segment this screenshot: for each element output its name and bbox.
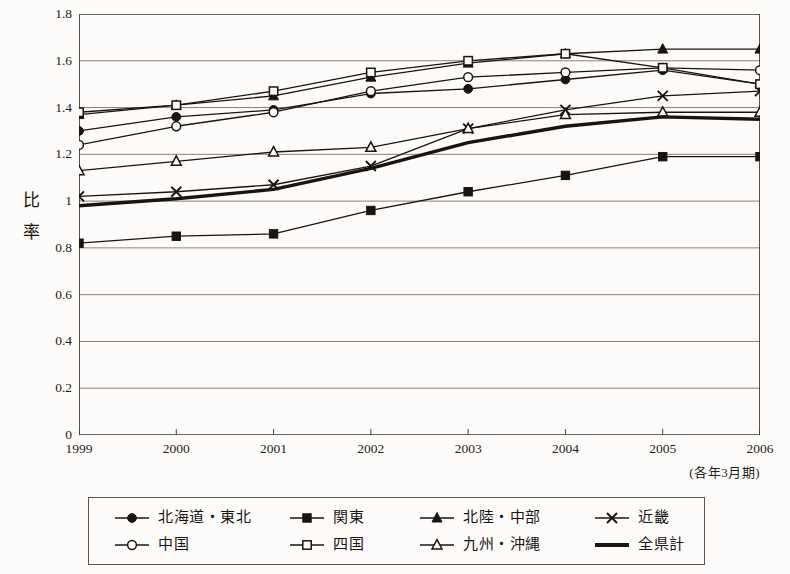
legend-item-4[interactable]: 中国: [113, 537, 288, 552]
chart-svg: [79, 14, 760, 435]
data-point: [172, 101, 180, 109]
legend-marker-open-circle-icon: [113, 538, 151, 552]
legend-item-7[interactable]: 全県計: [593, 537, 718, 552]
data-point: [561, 171, 569, 179]
legend-item-5[interactable]: 四国: [288, 537, 418, 552]
legend-marker-glyph: [303, 540, 311, 548]
data-point: [269, 87, 277, 95]
data-point: [367, 206, 375, 214]
data-point: [464, 57, 472, 65]
legend-marker-thick-line-icon: [593, 538, 631, 552]
x-axis-note: (各年3月期): [689, 462, 760, 481]
data-point: [367, 68, 375, 76]
legend-item-2[interactable]: 北陸・中部: [418, 510, 593, 525]
data-point: [756, 66, 760, 75]
legend-marker-glyph: [432, 539, 442, 548]
x-axis-tick-labels: 19992000200120022003200420052006: [0, 441, 790, 461]
chart-page: 比 率 00.20.40.60.811.21.41.61.8 199920002…: [0, 0, 790, 574]
axis-frame: [79, 14, 760, 435]
legend-item-1[interactable]: 関東: [288, 510, 418, 525]
data-point: [172, 113, 181, 122]
data-point: [464, 84, 473, 93]
legend-label: 中国: [158, 537, 189, 552]
data-point: [172, 232, 180, 240]
x-tick-marks: [79, 429, 760, 435]
data-point: [79, 127, 83, 136]
legend-marker-open-triangle-icon: [418, 538, 456, 552]
x-tick-label-2005: 2005: [628, 441, 698, 457]
x-tick-label-2001: 2001: [239, 441, 309, 457]
legend-marker-glyph: [303, 513, 311, 521]
data-point: [756, 80, 760, 88]
legend-label: 北海道・東北: [158, 510, 251, 525]
legend-label: 近畿: [638, 510, 669, 525]
legend-label: 北陸・中部: [463, 510, 541, 525]
data-point: [366, 87, 375, 96]
legend-marker-glyph: [128, 540, 137, 549]
legend-item-0[interactable]: 北海道・東北: [113, 510, 288, 525]
legend-grid: 北海道・東北中国関東四国北陸・中部九州・沖縄近畿全県計: [89, 504, 704, 558]
y-axis-tick-labels: 00.20.40.60.811.21.41.61.8: [28, 14, 72, 435]
legend-label: 四国: [333, 537, 364, 552]
data-point: [756, 152, 760, 160]
x-tick-label-2004: 2004: [530, 441, 600, 457]
legend-marker-glyph: [432, 512, 442, 521]
legend-label: 九州・沖縄: [463, 537, 541, 552]
data-point: [561, 50, 569, 58]
data-point: [464, 188, 472, 196]
data-point: [755, 107, 760, 116]
x-tick-label-2002: 2002: [336, 441, 406, 457]
legend-box: 北海道・東北中国関東四国北陸・中部九州・沖縄近畿全県計: [88, 497, 705, 565]
data-point: [79, 141, 83, 150]
data-point: [658, 44, 668, 53]
y-tick-label-0.8: 0.8: [32, 241, 72, 255]
x-tick-label-1999: 1999: [44, 441, 114, 457]
series-line: [79, 112, 760, 170]
y-tick-label-0.4: 0.4: [32, 335, 72, 349]
data-point: [172, 122, 181, 131]
data-point: [561, 68, 570, 77]
data-point: [269, 230, 277, 238]
y-tick-label-0.2: 0.2: [32, 381, 72, 395]
data-point: [658, 107, 668, 116]
data-point: [79, 108, 83, 116]
x-tick-label-2000: 2000: [141, 441, 211, 457]
data-point: [79, 239, 83, 247]
legend-marker-filled-circle-icon: [113, 511, 151, 525]
y-tick-label-1.8: 1.8: [32, 7, 72, 21]
y-tick-label-1.6: 1.6: [32, 54, 72, 68]
legend-marker-open-square-icon: [288, 538, 326, 552]
data-point: [659, 64, 667, 72]
data-point: [269, 108, 278, 117]
data-point: [755, 44, 760, 53]
y-tick-label-1: 1: [32, 194, 72, 208]
y-tick-label-1.2: 1.2: [32, 148, 72, 162]
legend-marker-filled-square-icon: [288, 511, 326, 525]
y-tick-label-0.6: 0.6: [32, 288, 72, 302]
x-tick-label-2003: 2003: [433, 441, 503, 457]
y-tick-label-0: 0: [32, 428, 72, 442]
legend-marker-filled-triangle-icon: [418, 511, 456, 525]
series-5: [79, 50, 760, 117]
y-tick-label-1.4: 1.4: [32, 101, 72, 115]
legend-marker-glyph: [128, 513, 137, 522]
data-point: [464, 73, 473, 82]
legend-label: 全県計: [638, 537, 685, 552]
legend-label: 関東: [333, 510, 364, 525]
data-point: [659, 152, 667, 160]
legend-item-6[interactable]: 九州・沖縄: [418, 537, 593, 552]
legend-item-3[interactable]: 近畿: [593, 510, 718, 525]
legend-marker-cross-icon: [593, 511, 631, 525]
x-tick-label-2006: 2006: [725, 441, 790, 457]
plot-area: [79, 14, 760, 435]
